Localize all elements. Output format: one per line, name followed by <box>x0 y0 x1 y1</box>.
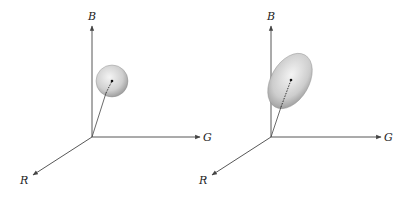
b-axis-label: B <box>266 10 275 23</box>
r-axis-label: R <box>198 174 207 187</box>
mean-point <box>111 80 114 83</box>
rgb-color-space-diagrams: B G R B G R <box>0 0 416 197</box>
r-axis-label: R <box>19 174 28 187</box>
diagram-sphere: B G R <box>19 10 212 187</box>
g-axis-label: G <box>384 131 393 144</box>
g-axis-label: G <box>203 131 212 144</box>
mean-point <box>290 79 293 82</box>
mean-vector <box>92 93 106 137</box>
mean-vector <box>271 107 281 137</box>
ellipsoid <box>259 46 322 117</box>
r-axis <box>33 137 92 175</box>
r-axis <box>212 137 271 175</box>
diagram-ellipsoid: B G R <box>198 10 393 187</box>
b-axis-label: B <box>87 10 96 23</box>
